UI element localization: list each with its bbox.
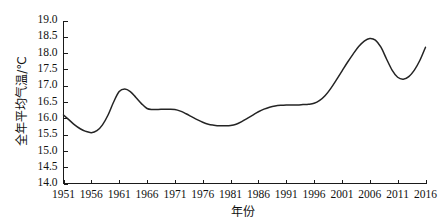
temperature-line [64,38,426,132]
y-tick-label: 18.0 [37,46,57,58]
y-axis-tick-labels: 14.014.515.015.516.016.517.017.518.018.5… [37,13,57,188]
line-chart: 14.014.515.015.516.016.517.017.518.018.5… [0,0,447,224]
x-tick-label: 1991 [275,188,298,200]
x-axis-tick-labels: 1951195619611966197119761981198619911996… [52,188,437,200]
x-axis-title: 年份 [231,205,255,219]
x-tick-label: 1986 [247,188,270,200]
x-tick-label: 1951 [52,188,75,200]
y-tick-label: 15.5 [37,127,57,139]
x-tick-label: 1976 [191,188,214,200]
chart-figure: 14.014.515.015.516.016.517.017.518.018.5… [0,0,447,224]
y-tick-label: 14.0 [37,176,57,188]
y-tick-label: 15.0 [37,144,57,156]
x-tick-label: 2011 [386,188,409,200]
axes [64,21,426,184]
x-tick-label: 1956 [80,188,103,200]
y-axis-title: 全年平均气温/℃ [14,56,29,146]
x-tick-label: 1971 [163,188,186,200]
y-tick-label: 16.5 [37,95,57,107]
x-tick-label: 2001 [330,188,353,200]
y-tick-label: 19.0 [37,13,57,25]
y-tick-label: 18.5 [37,29,57,41]
data-series-curve [64,38,426,132]
y-tick-label: 17.5 [37,62,57,74]
y-tick-label: 16.0 [37,111,57,123]
y-tick-label: 17.0 [37,78,57,90]
x-tick-label: 1981 [219,188,242,200]
tick-marks [64,22,427,185]
x-tick-label: 1996 [303,188,326,200]
y-tick-label: 14.5 [37,160,57,172]
x-tick-label: 2016 [414,188,437,200]
x-tick-label: 2006 [358,188,381,200]
x-tick-label: 1966 [136,188,159,200]
x-tick-label: 1961 [108,188,131,200]
